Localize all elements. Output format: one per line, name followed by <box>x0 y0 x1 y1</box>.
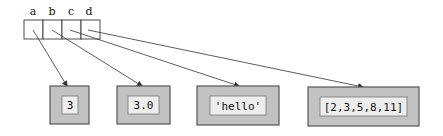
variable-label-b: b <box>48 5 55 18</box>
variable-label-d: d <box>85 5 92 18</box>
variable-cell-b <box>43 20 62 39</box>
reference-diagram: a b c d 3 3.0 'hello' [2,3,5,8,1 <box>0 0 443 136</box>
object-value: 3 <box>67 99 74 112</box>
variable-cell-c <box>62 20 81 39</box>
variable-label-a: a <box>30 5 37 18</box>
object-box-list: [2,3,5,8,11] <box>308 87 419 126</box>
variable-cell-d <box>81 20 100 39</box>
object-value: [2,3,5,8,11] <box>324 101 403 114</box>
arrow-c <box>70 30 239 86</box>
variable-labels: a b c d <box>30 5 93 18</box>
object-box-int: 3 <box>50 86 89 124</box>
variable-label-c: c <box>68 5 74 18</box>
object-box-float: 3.0 <box>117 86 170 124</box>
variable-cell-a <box>24 20 43 39</box>
object-value: 3.0 <box>134 99 154 112</box>
object-box-string: 'hello' <box>197 86 279 125</box>
object-value: 'hello' <box>215 100 261 113</box>
